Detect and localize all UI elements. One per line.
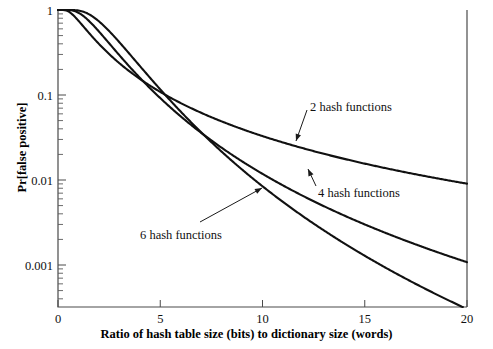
- x-tick-label: 5: [157, 312, 163, 326]
- annotation-2-hash-functions: 2 hash functions: [310, 100, 392, 115]
- annotation-leaders: [200, 110, 316, 222]
- x-tick-label: 10: [256, 312, 269, 326]
- chart-canvas: 10.10.010.00105101520: [0, 0, 493, 349]
- y-axis-label: Pr[false positive]: [15, 68, 30, 228]
- y-tick-label: 0.001: [25, 259, 53, 273]
- bloom-filter-false-positive-chart: 10.10.010.00105101520 2 hash functions 4…: [0, 0, 493, 349]
- x-tick-label: 20: [461, 312, 474, 326]
- y-tick-label: 0.1: [37, 89, 53, 103]
- annotation-6-hash-functions: 6 hash functions: [140, 228, 222, 243]
- annotation-4-hash-functions: 4 hash functions: [318, 186, 400, 201]
- data-curves: [58, 10, 467, 307]
- y-tick-label: 1: [47, 4, 53, 18]
- x-tick-label: 0: [55, 312, 61, 326]
- x-axis-label: Ratio of hash table size (bits) to dicti…: [0, 327, 493, 342]
- y-tick-label: 0.01: [31, 174, 53, 188]
- curve-2-hash-functions: [58, 10, 467, 184]
- x-tick-label: 15: [359, 312, 372, 326]
